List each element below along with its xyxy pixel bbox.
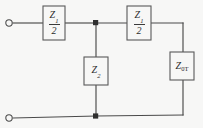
numerator-subscript-right: 1 xyxy=(140,17,143,24)
wire-bottom-rail-right xyxy=(96,115,183,116)
fraction-z1-over-2-right: Z1 2 xyxy=(134,10,145,36)
label-shunt-z2: Z2 xyxy=(84,57,108,85)
circuit-diagram: Z1 2 Z1 2 Z2 Z0T xyxy=(0,0,203,128)
label-series-z1-half-right: Z1 2 xyxy=(127,6,151,40)
node-top-mid-icon xyxy=(93,20,98,25)
terminal-group xyxy=(6,20,12,121)
numerator-subscript-left: 1 xyxy=(55,17,58,24)
symbol-z2: Z2 xyxy=(92,65,101,78)
fraction-numerator-left: Z1 xyxy=(49,10,60,24)
subscript-z0t: 0T xyxy=(181,65,188,72)
label-termination-z0t: Z0T xyxy=(170,52,194,80)
wire-bottom-rail-left xyxy=(13,116,96,118)
fraction-denominator-left: 2 xyxy=(51,25,58,36)
input-terminal-bottom-icon[interactable] xyxy=(6,115,12,121)
fraction-denominator-right: 2 xyxy=(136,25,143,36)
subscript-z2: 2 xyxy=(97,72,100,79)
label-series-z1-half-left: Z1 2 xyxy=(43,6,65,40)
fraction-z1-over-2-left: Z1 2 xyxy=(49,10,60,36)
node-bottom-mid-icon xyxy=(93,113,98,118)
symbol-z0t: Z0T xyxy=(176,61,189,71)
input-terminal-top-icon[interactable] xyxy=(6,20,12,26)
fraction-numerator-right: Z1 xyxy=(134,10,145,24)
